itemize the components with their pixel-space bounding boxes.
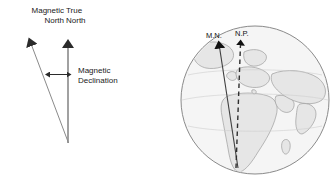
land-scandinavia	[244, 50, 267, 67]
magnetic-declination-figure: Magnetic North True North Magnetic Decli…	[0, 0, 333, 191]
magnetic-declination-label: Magnetic Declination	[78, 66, 140, 85]
magnetic-north-vector	[32, 45, 69, 143]
true-north-label: True North	[66, 6, 112, 25]
land-greenland	[194, 42, 234, 69]
magnetic-north-label: Magnetic North	[6, 6, 64, 25]
globe-magnetic-north-label: M.N.	[206, 31, 222, 41]
land-madagascar	[282, 139, 291, 154]
left-diagram-vectors	[0, 0, 333, 191]
globe-group	[181, 26, 329, 174]
globe-north-pole-label: N.P.	[235, 29, 249, 39]
land-mediterranean-island	[252, 90, 256, 94]
